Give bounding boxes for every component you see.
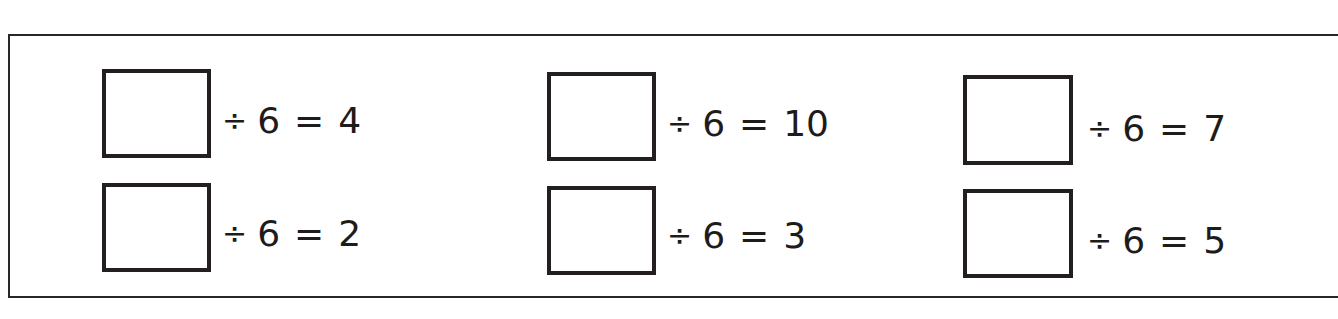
- divisor: 6: [1122, 223, 1145, 259]
- divisor: 6: [702, 218, 725, 254]
- quotient: 4: [338, 103, 361, 139]
- equals-sign: =: [1159, 111, 1189, 147]
- divide-sign: ÷: [222, 216, 247, 252]
- divisor: 6: [1122, 111, 1145, 147]
- answer-box[interactable]: [102, 183, 211, 272]
- answer-box[interactable]: [963, 75, 1073, 165]
- equals-sign: =: [739, 106, 769, 142]
- divisor: 6: [257, 103, 280, 139]
- equation: ÷6=10: [667, 106, 829, 142]
- answer-box[interactable]: [102, 69, 211, 158]
- equals-sign: =: [739, 218, 769, 254]
- quotient: 7: [1203, 111, 1226, 147]
- divisor: 6: [702, 106, 725, 142]
- divide-sign: ÷: [667, 218, 692, 254]
- divide-sign: ÷: [1087, 223, 1112, 259]
- equation: ÷6=3: [667, 218, 806, 254]
- divide-sign: ÷: [222, 103, 247, 139]
- equals-sign: =: [1159, 223, 1189, 259]
- equation: ÷6=2: [222, 216, 361, 252]
- divide-sign: ÷: [667, 106, 692, 142]
- equals-sign: =: [294, 216, 324, 252]
- answer-box[interactable]: [547, 186, 656, 275]
- quotient: 2: [338, 216, 361, 252]
- equation: ÷6=7: [1087, 111, 1226, 147]
- quotient: 10: [783, 106, 829, 142]
- equation: ÷6=5: [1087, 223, 1226, 259]
- quotient: 5: [1203, 223, 1226, 259]
- equals-sign: =: [294, 103, 324, 139]
- equation: ÷6=4: [222, 103, 361, 139]
- answer-box[interactable]: [547, 72, 656, 161]
- divide-sign: ÷: [1087, 111, 1112, 147]
- quotient: 3: [783, 218, 806, 254]
- answer-box[interactable]: [963, 189, 1073, 278]
- divisor: 6: [257, 216, 280, 252]
